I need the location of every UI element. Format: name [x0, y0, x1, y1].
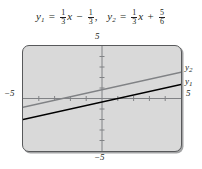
- curve-label-y1-subscript: 1: [189, 80, 193, 88]
- equation-y1: y1 = 1 3 x − 1 3 ,: [36, 9, 97, 27]
- equation-y1-subscript: 1: [41, 16, 45, 24]
- axis-label-xmin: −5: [4, 88, 15, 98]
- axis-label-ymax: 5: [95, 31, 100, 41]
- curve-label-y2: y2: [185, 62, 193, 74]
- equation-separator: ,: [95, 10, 98, 22]
- equation-y2: y2 = 1 3 x + 5 6: [107, 9, 166, 27]
- equation-caption: y1 = 1 3 x − 1 3 , y2 = 1 3 x + 5 6: [0, 9, 202, 27]
- axis-label-xmax: 5: [186, 88, 191, 98]
- equation-y1-constant-fraction: 1 3: [88, 9, 94, 27]
- equation-y2-equals: =: [120, 10, 126, 22]
- equation-y1-slope-fraction: 1 3: [60, 9, 66, 27]
- curve-label-y2-subscript: 2: [189, 66, 193, 74]
- equation-y2-constant-denominator: 6: [159, 18, 165, 26]
- equation-y1-x-variable: x: [67, 10, 72, 22]
- equation-y2-x-variable: x: [138, 10, 143, 22]
- axis-label-ymin: −5: [94, 152, 105, 162]
- equation-y1-sign: −: [76, 10, 82, 22]
- curve-label-y1: y1: [185, 76, 193, 88]
- equation-y2-slope-fraction: 1 3: [131, 9, 137, 27]
- equation-y2-slope-denominator: 3: [131, 18, 137, 26]
- equation-y1-equals: =: [49, 10, 55, 22]
- equation-y2-constant-fraction: 5 6: [159, 9, 165, 27]
- equation-y2-sign: +: [148, 10, 154, 22]
- plot-area: [23, 46, 181, 151]
- equation-y2-subscript: 2: [112, 16, 116, 24]
- equation-y1-constant-denominator: 3: [88, 18, 94, 26]
- equation-y1-slope-denominator: 3: [60, 18, 66, 26]
- graph-window: [22, 45, 182, 152]
